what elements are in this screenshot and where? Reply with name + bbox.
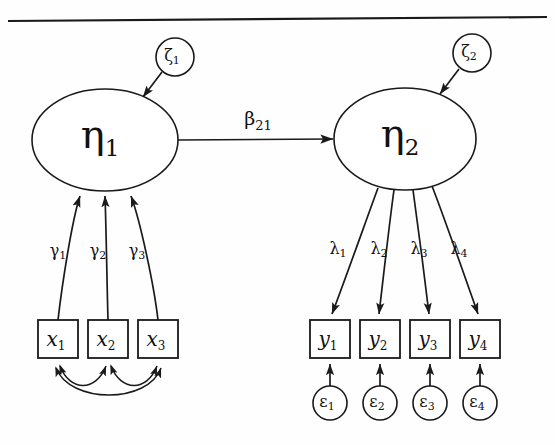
disturbance-path-zeta2 — [440, 69, 459, 94]
gamma1-label: γ1 — [50, 241, 67, 263]
lambda1-label: λ1 — [329, 239, 346, 261]
sem-path-diagram: β21 γ1 γ2 γ3 λ1 λ2 λ3 λ — [0, 0, 555, 445]
lambda4-label: λ4 — [450, 239, 467, 261]
lambda2-label: λ2 — [370, 239, 387, 261]
lambda3-label: λ3 — [410, 239, 427, 261]
gamma2-label: γ2 — [90, 241, 107, 263]
structural-path-beta21 — [178, 139, 333, 140]
disturbance-path-zeta1 — [143, 72, 162, 97]
sem-diagram-page: β21 γ1 γ2 γ3 λ1 λ2 λ3 λ — [0, 0, 555, 445]
top-divider-rule — [8, 17, 547, 21]
beta21-label: β21 — [244, 107, 272, 133]
gamma3-label: γ3 — [129, 241, 146, 263]
